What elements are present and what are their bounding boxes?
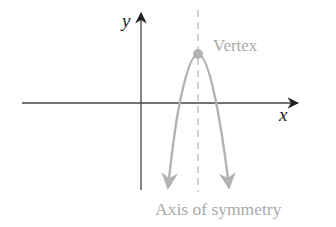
y-axis-label: y — [120, 10, 131, 31]
axis-of-symmetry-label: Axis of symmetry — [155, 199, 282, 219]
parabola-right-branch — [198, 54, 229, 188]
vertex-dot — [193, 49, 203, 59]
x-axis-label: x — [278, 104, 288, 125]
vertex-label: Vertex — [213, 36, 258, 55]
parabola-diagram: y x Vertex Axis of symmetry — [0, 0, 336, 227]
parabola-left-branch — [168, 54, 198, 188]
